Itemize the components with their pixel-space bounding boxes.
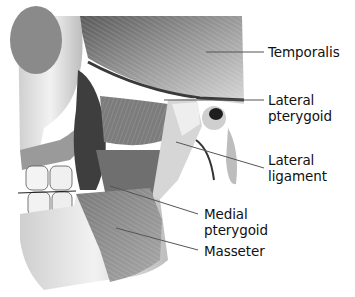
label-lateral-ligament: Lateral ligament [268,152,327,184]
label-line: Lateral [268,92,332,108]
label-medial-pterygoid: Medial pterygoid [204,206,268,238]
label-line: Lateral [268,152,327,168]
label-line: ligament [268,168,327,184]
label-line: pterygoid [204,222,268,238]
lateral-pterygoid-muscle [100,96,170,145]
label-lateral-pterygoid: Lateral pterygoid [268,92,332,124]
label-line: Medial [204,206,268,222]
anatomy-illustration: Temporalis Lateral pterygoid Lateral lig… [0,0,355,297]
label-line: Masseter [204,243,265,259]
leader-lateral-ligament [176,142,264,168]
label-line: pterygoid [268,108,332,124]
temporalis-muscle [78,16,244,104]
label-masseter: Masseter [204,243,265,259]
label-temporalis: Temporalis [268,44,340,60]
label-line: Temporalis [268,44,340,60]
